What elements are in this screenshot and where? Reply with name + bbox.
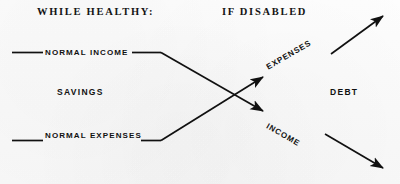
heading-while-healthy: WHILE HEALTHY: — [37, 6, 154, 17]
expenses-rise-line-segment-2 — [331, 16, 383, 54]
expenses-rise-line-segment-1 — [161, 77, 263, 141]
label-savings: SAVINGS — [57, 87, 104, 97]
label-normal-income: NORMAL INCOME — [45, 48, 128, 57]
label-normal-expenses: NORMAL EXPENSES — [45, 131, 142, 140]
income-decline-line-segment-2 — [325, 134, 383, 168]
income-decline-line-segment-1 — [161, 53, 263, 112]
label-debt: DEBT — [330, 87, 358, 97]
heading-if-disabled: IF DISABLED — [222, 6, 307, 17]
disability-income-expense-diagram: WHILE HEALTHY: IF DISABLED NORMAL INCOME… — [0, 0, 400, 184]
